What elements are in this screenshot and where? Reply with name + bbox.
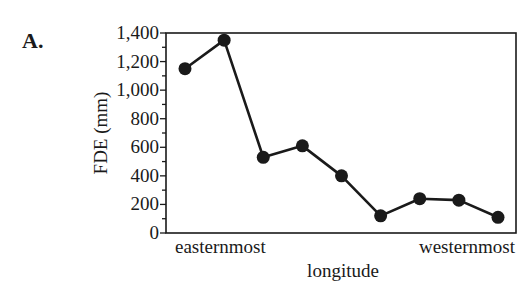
data-point-marker — [413, 192, 426, 205]
data-point-marker — [492, 211, 505, 224]
x-axis-right-label: westernmost — [419, 236, 516, 257]
y-axis: 02004006008001,0001,2001,400 — [116, 22, 166, 243]
data-series — [179, 34, 505, 224]
y-tick-label: 800 — [131, 108, 160, 129]
data-point-marker — [179, 62, 192, 75]
data-point-marker — [374, 209, 387, 222]
line-chart: 02004006008001,0001,2001,400 FDE (mm) ea… — [0, 0, 530, 296]
x-axis-label: longitude — [307, 260, 379, 281]
y-tick-label: 600 — [131, 136, 160, 157]
data-point-marker — [335, 169, 348, 182]
data-point-marker — [296, 139, 309, 152]
series-line — [185, 40, 498, 217]
data-point-marker — [257, 151, 270, 164]
y-axis-label: FDE (mm) — [90, 92, 112, 175]
data-point-marker — [218, 34, 231, 47]
y-tick-label: 200 — [131, 193, 160, 214]
x-axis-left-label: easternmost — [175, 236, 266, 257]
y-tick-label: 400 — [131, 165, 160, 186]
y-tick-label: 1,000 — [116, 79, 159, 100]
y-tick-label: 0 — [150, 222, 160, 243]
y-tick-label: 1,400 — [116, 22, 159, 43]
y-tick-label: 1,200 — [116, 51, 159, 72]
data-point-marker — [452, 194, 465, 207]
